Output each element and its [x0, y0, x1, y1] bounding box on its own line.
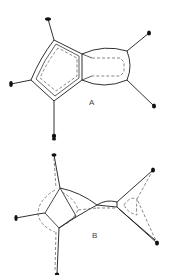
terminal-atoms-a — [9, 17, 156, 138]
molecular-diagram — [0, 0, 175, 275]
panel-label-a: A — [89, 98, 94, 107]
terminal-atoms-b — [14, 137, 159, 275]
panel-label-b: B — [92, 231, 97, 240]
structure-b — [16, 155, 157, 274]
structure-a — [11, 19, 154, 136]
